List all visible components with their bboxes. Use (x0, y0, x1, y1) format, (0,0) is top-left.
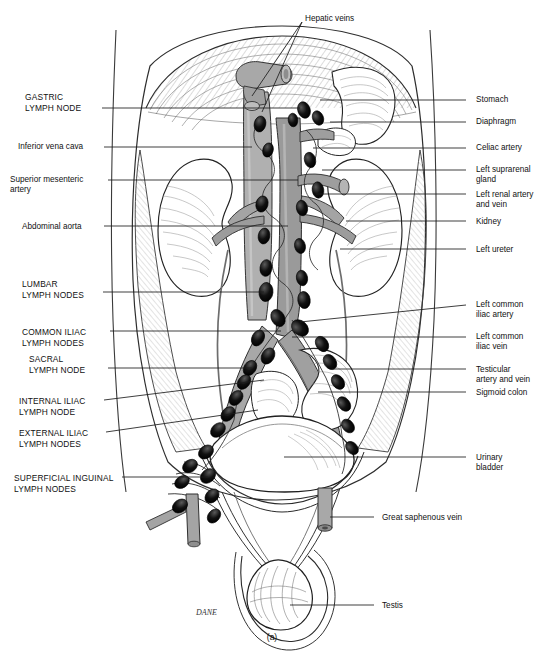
label-line: iliac vein (476, 342, 523, 352)
label-line: and vein (476, 200, 533, 210)
label-line: Superior mesenteric (10, 175, 83, 185)
label-kidney: Kidney (476, 217, 501, 227)
label-line: bladder (476, 463, 503, 473)
great-saphenous-vein-vessel (318, 488, 332, 531)
label-line: LYMPH NODES (14, 484, 114, 495)
label-sacral-lymph-node: SACRALLYMPH NODE (29, 354, 85, 375)
label-line: LYMPH NODES (22, 290, 84, 301)
label-inferior-vena-cava: Inferior vena cava (18, 142, 83, 152)
label-stomach: Stomach (476, 95, 508, 105)
abdominal-aorta-vessel (276, 118, 302, 338)
label-celiac-artery: Celiac artery (476, 143, 522, 153)
label-line: INTERNAL ILIAC (19, 396, 85, 407)
label-line: SUPERFICIAL INGUINAL (14, 473, 114, 484)
label-sigmoid-colon: Sigmoid colon (476, 388, 527, 398)
label-abdominal-aorta: Abdominal aorta (22, 222, 82, 232)
label-line: Great saphenous vein (382, 513, 462, 523)
anatomy-figure: GASTRICLYMPH NODEInferior vena cavaSuper… (0, 0, 544, 657)
label-common-iliac-lymph-nodes: COMMON ILIACLYMPH NODES (22, 327, 86, 348)
label-line: Left renal artery (476, 190, 533, 200)
label-line: LYMPH NODE (29, 365, 85, 376)
label-line: artery and vein (476, 375, 530, 385)
label-line: Left common (476, 300, 523, 310)
label-line: artery (10, 185, 83, 195)
label-line: Abdominal aorta (22, 222, 82, 232)
label-line: Kidney (476, 217, 501, 227)
label-line: gland (476, 175, 531, 185)
figure-caption: (a) (0, 632, 544, 642)
label-line: LYMPH NODE (25, 103, 81, 114)
label-line: Left common (476, 332, 523, 342)
label-line: Urinary (476, 453, 503, 463)
label-line: GASTRIC (25, 92, 81, 103)
label-line: iliac artery (476, 310, 523, 320)
label-line: Sigmoid colon (476, 388, 527, 398)
label-line: SACRAL (29, 354, 85, 365)
label-internal-iliac-lymph-node: INTERNAL ILIACLYMPH NODE (19, 396, 85, 417)
label-line: Diaphragm (476, 117, 516, 127)
label-left-ureter: Left ureter (476, 245, 513, 255)
label-line: Left suprarenal (476, 165, 531, 175)
label-line: EXTERNAL ILIAC (19, 428, 88, 439)
label-line: Testicular (476, 365, 530, 375)
label-great-saphenous-vein: Great saphenous vein (382, 513, 462, 523)
label-line: Hepatic veins (305, 14, 354, 24)
label-superior-mesenteric-artery: Superior mesentericartery (10, 175, 83, 194)
label-left-renal-artery-and-vein: Left renal arteryand vein (476, 190, 533, 209)
label-testicular-artery-and-vein: Testicularartery and vein (476, 365, 530, 384)
label-lumbar-lymph-nodes: LUMBARLYMPH NODES (22, 279, 84, 300)
label-line: LUMBAR (22, 279, 84, 290)
femoral-vessels-left (146, 494, 200, 547)
label-hepatic-veins: Hepatic veins (305, 14, 354, 24)
label-line: LYMPH NODE (19, 407, 85, 418)
label-line: COMMON ILIAC (22, 327, 86, 338)
label-gastric-lymph-node: GASTRICLYMPH NODE (25, 92, 81, 113)
label-line: Stomach (476, 95, 508, 105)
label-line: Inferior vena cava (18, 142, 83, 152)
label-left-common-iliac-vein: Left commoniliac vein (476, 332, 523, 351)
label-line: LYMPH NODES (19, 439, 88, 450)
label-line: Testis (382, 601, 403, 611)
label-superficial-inguinal-lymph-nodes: SUPERFICIAL INGUINALLYMPH NODES (14, 473, 114, 494)
label-testis: Testis (382, 601, 403, 611)
label-left-suprarenal-gland: Left suprarenalgland (476, 165, 531, 184)
artist-signature: DANE (196, 608, 217, 617)
label-line: LYMPH NODES (22, 338, 86, 349)
label-diaphragm: Diaphragm (476, 117, 516, 127)
label-urinary-bladder: Urinarybladder (476, 453, 503, 472)
lymph-node-superficial-inguinal (205, 506, 224, 525)
label-line: Celiac artery (476, 143, 522, 153)
label-line: Left ureter (476, 245, 513, 255)
label-external-iliac-lymph-nodes: EXTERNAL ILIACLYMPH NODES (19, 428, 88, 449)
label-left-common-iliac-artery: Left commoniliac artery (476, 300, 523, 319)
